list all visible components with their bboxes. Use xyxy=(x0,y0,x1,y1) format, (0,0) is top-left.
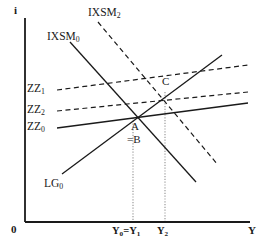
economics-diagram: i Y 0 IXSM0 IXSM2 ZZ1 ZZ2 ZZ0 LG0 A =B C… xyxy=(0,0,271,249)
point-label-b: =B xyxy=(127,134,141,145)
origin-label: 0 xyxy=(11,224,17,235)
curve-label-zz0-sub: 0 xyxy=(41,125,45,134)
x-tick-label-y0-y1: Y0=Y1 xyxy=(112,226,140,237)
curve-lg0 xyxy=(62,55,222,174)
point-label-a: A xyxy=(131,121,139,132)
x-tick-y0-text: Y xyxy=(112,225,120,236)
curve-label-zz1: ZZ1 xyxy=(27,83,45,95)
x-tick-y2-text: Y xyxy=(157,225,165,236)
curve-label-zz1-text: ZZ xyxy=(27,82,41,94)
curve-label-zz2-text: ZZ xyxy=(27,103,41,115)
curve-label-ixsm2-sub: 2 xyxy=(117,11,121,20)
curve-label-ixsm0-text: IXSM xyxy=(47,30,76,42)
curve-label-ixsm2: IXSM2 xyxy=(88,7,121,19)
x-tick-label-y2: Y2 xyxy=(157,226,168,237)
curve-label-ixsm0-sub: 0 xyxy=(76,35,80,44)
point-label-c: C xyxy=(162,76,169,87)
curve-label-ixsm2-text: IXSM xyxy=(88,6,117,18)
curve-label-lg0-sub: 0 xyxy=(59,182,63,191)
curve-label-zz0-text: ZZ xyxy=(27,120,41,132)
curve-label-zz1-sub: 1 xyxy=(41,87,45,96)
curve-label-lg0: LG0 xyxy=(44,178,63,190)
curve-label-zz2: ZZ2 xyxy=(27,104,45,116)
y-axis-label: i xyxy=(14,5,17,16)
x-tick-y0-sub: 0 xyxy=(120,230,124,238)
curve-label-zz0: ZZ0 xyxy=(27,121,45,133)
curve-label-ixsm0: IXSM0 xyxy=(47,31,80,43)
x-tick-y1-text: Y xyxy=(129,225,137,236)
curve-zz2 xyxy=(57,92,248,111)
curve-label-lg0-text: LG xyxy=(44,177,59,189)
curve-label-zz2-sub: 2 xyxy=(41,108,45,117)
x-axis-label: Y xyxy=(248,225,256,236)
curve-zz1 xyxy=(57,65,248,90)
x-tick-y1-sub: 1 xyxy=(137,230,141,238)
x-tick-y2-sub: 2 xyxy=(165,230,169,238)
